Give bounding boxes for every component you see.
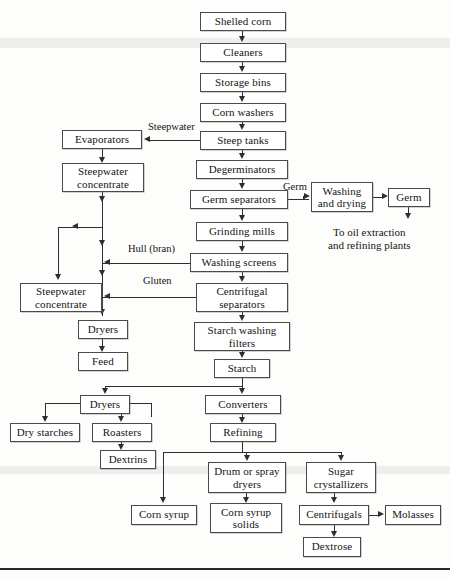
node-roasters[interactable]: Roasters bbox=[92, 423, 152, 442]
node-label: Steepwater concentrate bbox=[77, 165, 129, 189]
arrow-down bbox=[244, 455, 250, 461]
connector-line bbox=[45, 403, 46, 417]
node-dryers-starch[interactable]: Dryers bbox=[80, 395, 130, 414]
arrow-down bbox=[239, 315, 245, 321]
node-steepwater-concentrate-upper[interactable]: Steepwater concentrate bbox=[62, 163, 144, 192]
edge-label-gluten: Gluten bbox=[143, 275, 172, 286]
arrow-down bbox=[160, 497, 166, 503]
node-washing-and-drying[interactable]: Washing and drying bbox=[311, 182, 373, 212]
node-label: Sugar crystallizers bbox=[314, 465, 368, 489]
node-centrifugal-separators[interactable]: Centrifugal separators bbox=[196, 283, 288, 312]
node-label: Roasters bbox=[103, 427, 142, 439]
connector-line bbox=[163, 452, 342, 453]
connector-line bbox=[103, 297, 196, 298]
node-feed[interactable]: Feed bbox=[78, 352, 128, 371]
node-label: Steep tanks bbox=[217, 135, 269, 147]
arrow-down bbox=[239, 246, 245, 252]
node-starch-washing-filters[interactable]: Starch washing filters bbox=[194, 322, 290, 351]
node-shelled-corn[interactable]: Shelled corn bbox=[200, 12, 286, 31]
connector-line bbox=[130, 403, 152, 404]
connector-line bbox=[163, 452, 164, 498]
arrow-down bbox=[239, 96, 245, 102]
connector-line bbox=[58, 227, 59, 275]
node-label: Feed bbox=[92, 356, 114, 368]
node-sugar-crystallizers[interactable]: Sugar crystallizers bbox=[306, 462, 376, 493]
node-label: Corn syrup bbox=[139, 509, 189, 521]
node-corn-syrup-solids[interactable]: Corn syrup solids bbox=[210, 503, 282, 533]
connector-line bbox=[105, 386, 243, 387]
node-label: Cleaners bbox=[223, 47, 262, 59]
arrow-down bbox=[102, 388, 108, 394]
arrow-down bbox=[239, 66, 245, 72]
node-label: Centrifugal separators bbox=[216, 285, 267, 309]
arrow-down bbox=[239, 36, 245, 42]
arrow-down bbox=[99, 270, 105, 276]
edge-label-germ: Germ bbox=[283, 181, 307, 192]
arrow-down bbox=[239, 124, 245, 130]
arrow-down bbox=[99, 240, 105, 246]
oil-extraction-note-line2: and refining plants bbox=[328, 239, 410, 252]
node-dryers-feed[interactable]: Dryers bbox=[78, 320, 128, 339]
node-label: Germ separators bbox=[202, 194, 276, 206]
node-storage-bins[interactable]: Storage bins bbox=[200, 73, 286, 92]
node-label: Refining bbox=[223, 427, 262, 439]
node-starch[interactable]: Starch bbox=[214, 359, 270, 378]
connector-line bbox=[45, 403, 81, 404]
node-refining[interactable]: Refining bbox=[210, 423, 276, 442]
arrow-right bbox=[304, 193, 310, 199]
node-label: Steepwater concentrate bbox=[35, 285, 87, 309]
node-dextrins[interactable]: Dextrins bbox=[100, 450, 156, 469]
arrow-down bbox=[239, 388, 245, 394]
connector-line bbox=[150, 140, 200, 141]
oil-extraction-note-line1: To oil extraction bbox=[328, 226, 410, 239]
arrow-down bbox=[42, 416, 48, 422]
node-germ[interactable]: Germ bbox=[388, 188, 430, 207]
node-label: Dry starches bbox=[17, 427, 74, 439]
node-evaporators[interactable]: Evaporators bbox=[62, 130, 142, 149]
edge-label-steepwater: Steepwater bbox=[148, 121, 195, 132]
node-label: Dextrose bbox=[312, 541, 353, 553]
node-cleaners[interactable]: Cleaners bbox=[200, 43, 286, 62]
flowchart-canvas: Shelled corn Cleaners Storage bins Corn … bbox=[0, 0, 450, 580]
oil-extraction-note: To oil extraction and refining plants bbox=[328, 226, 410, 251]
node-drum-or-spray-dryers[interactable]: Drum or spray dryers bbox=[208, 462, 286, 493]
node-label: Dextrins bbox=[109, 454, 148, 466]
node-centrifugals[interactable]: Centrifugals bbox=[299, 505, 369, 525]
node-dextrose[interactable]: Dextrose bbox=[303, 537, 361, 557]
arrow-left bbox=[72, 223, 78, 229]
arrow-down bbox=[338, 455, 344, 461]
arrow-left bbox=[144, 136, 150, 142]
node-grinding-mills[interactable]: Grinding mills bbox=[196, 222, 288, 241]
node-label: Degerminators bbox=[209, 164, 276, 176]
arrow-left bbox=[104, 293, 110, 299]
node-label: Dryers bbox=[90, 399, 121, 411]
arrow-down bbox=[55, 274, 61, 280]
node-label: Washing and drying bbox=[318, 185, 366, 209]
arrow-down bbox=[331, 497, 337, 503]
node-corn-washers[interactable]: Corn washers bbox=[200, 103, 286, 122]
node-molasses[interactable]: Molasses bbox=[385, 505, 441, 525]
node-converters[interactable]: Converters bbox=[205, 395, 281, 414]
node-label: Evaporators bbox=[75, 134, 129, 146]
node-germ-separators[interactable]: Germ separators bbox=[190, 190, 288, 209]
node-steepwater-concentrate-lower[interactable]: Steepwater concentrate bbox=[20, 283, 102, 312]
arrow-down bbox=[239, 215, 245, 221]
node-degerminators[interactable]: Degerminators bbox=[196, 160, 288, 179]
node-washing-screens[interactable]: Washing screens bbox=[190, 253, 288, 272]
node-steep-tanks[interactable]: Steep tanks bbox=[200, 131, 286, 150]
node-label: Molasses bbox=[392, 509, 434, 521]
node-label: Corn washers bbox=[212, 107, 273, 119]
node-label: Drum or spray dryers bbox=[214, 465, 279, 489]
page-bottom-rule bbox=[0, 568, 450, 570]
node-label: Shelled corn bbox=[215, 16, 272, 28]
connector-line bbox=[103, 263, 190, 264]
node-label: Converters bbox=[218, 399, 267, 411]
arrow-down bbox=[239, 183, 245, 189]
node-corn-syrup[interactable]: Corn syrup bbox=[131, 505, 197, 525]
connector-line bbox=[242, 378, 243, 386]
node-dry-starches[interactable]: Dry starches bbox=[10, 423, 80, 442]
arrow-down bbox=[239, 276, 245, 282]
node-label: Grinding mills bbox=[209, 226, 275, 238]
arrow-down bbox=[99, 196, 105, 202]
node-label: Starch bbox=[228, 363, 257, 375]
